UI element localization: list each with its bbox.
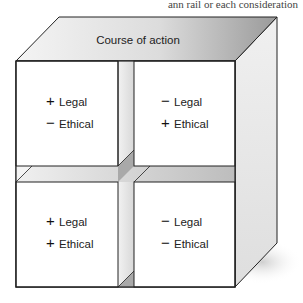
cropped-header-text: ann rail or each consideration (168, 0, 299, 10)
ethical-sign: − (161, 234, 170, 251)
ethical-label: Ethical (59, 118, 94, 130)
legal-label: Legal (59, 96, 87, 108)
ethical-label: Ethical (174, 238, 209, 250)
ethical-label: Ethical (174, 118, 209, 130)
ethical-sign: + (161, 114, 170, 131)
legal-sign: − (161, 212, 170, 229)
ethical-label: Ethical (59, 238, 94, 250)
legal-ethical-cube-diagram: ann rail or each consideration Course of… (0, 0, 303, 303)
quadrant-bottom-left: + Legal + Ethical (16, 166, 118, 287)
ethical-sign: − (46, 114, 55, 131)
quadrant-top-left: + Legal − Ethical (16, 61, 134, 166)
quadrant-top-right: − Legal + Ethical (134, 61, 235, 182)
legal-label: Legal (174, 96, 202, 108)
legal-label: Legal (174, 216, 202, 228)
legal-sign: + (46, 92, 55, 109)
legal-label: Legal (59, 216, 87, 228)
cube-title: Course of action (96, 34, 180, 46)
legal-sign: + (46, 212, 55, 229)
cube-right-face (235, 17, 277, 287)
legal-sign: − (161, 92, 170, 109)
quadrant-bottom-right: − Legal − Ethical (118, 182, 235, 287)
ethical-sign: + (46, 234, 55, 251)
